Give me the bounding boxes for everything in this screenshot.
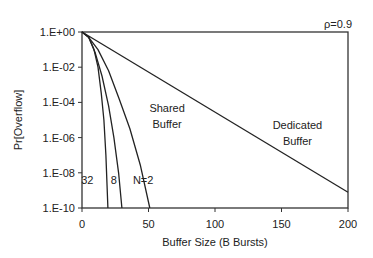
series-line-dedicated-buffer	[82, 32, 348, 192]
annotation-label: Shared	[149, 102, 184, 114]
x-tick-label: 50	[142, 218, 154, 230]
y-tick-label: 1.E-08	[43, 167, 75, 179]
annotation-label: N=2	[133, 174, 154, 186]
x-axis-title: Buffer Size (B Bursts)	[162, 236, 268, 248]
x-tick-label: 100	[206, 218, 224, 230]
y-tick-label: 1.E-06	[43, 132, 75, 144]
annotation-label: Buffer	[283, 135, 312, 147]
x-tick-label: 200	[339, 218, 357, 230]
x-tick-label: 0	[79, 218, 85, 230]
y-tick-label: 1.E+00	[40, 26, 75, 38]
chart: 1.E+001.E-021.E-041.E-061.E-081.E-100501…	[0, 0, 373, 258]
y-tick-label: 1.E-02	[43, 61, 75, 73]
annotation-label: ρ=0.9	[324, 18, 352, 30]
annotation-label: 32	[81, 174, 93, 186]
labels: ρ=0.9SharedBufferDedicatedBuffer328N=2	[81, 18, 352, 186]
y-tick-label: 1.E-10	[43, 202, 75, 214]
x-tick-label: 150	[272, 218, 290, 230]
annotation-label: Buffer	[153, 118, 182, 130]
annotation-label: Dedicated	[273, 119, 323, 131]
annotation-label: 8	[111, 174, 117, 186]
y-tick-label: 1.E-04	[43, 96, 75, 108]
y-axis-title: Pr[Overflow]	[12, 90, 24, 151]
